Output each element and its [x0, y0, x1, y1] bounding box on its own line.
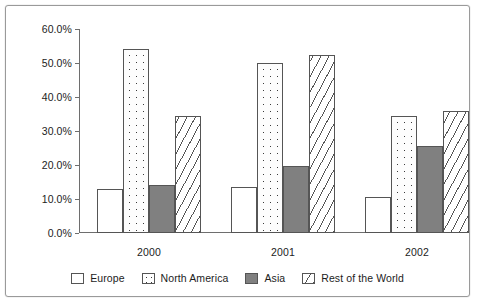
y-axis-tick-label-60.0pct: 60.0% [42, 23, 72, 35]
legend-label-asia: Asia [264, 272, 285, 284]
y-axis-tick-label-40.0pct: 40.0% [42, 91, 72, 103]
bar-europe-2002[interactable] [365, 197, 391, 233]
bar-asia-2001[interactable] [283, 166, 309, 233]
bar-north-america-2002[interactable] [391, 116, 417, 233]
bar-north-america-2000[interactable] [123, 49, 149, 233]
bar-rest-of-the-world-2002[interactable] [443, 111, 469, 233]
legend-label-north-america: North America [161, 272, 229, 284]
legend-swatch-europe [71, 273, 84, 284]
y-axis-tick-mark [75, 63, 79, 64]
x-axis-category-label-2001: 2001 [271, 246, 295, 258]
y-axis-tick-mark [75, 97, 79, 98]
y-axis-tick-mark [75, 165, 79, 166]
legend-item-europe[interactable]: Europe [71, 272, 124, 284]
bar-rest-of-the-world-2000[interactable] [175, 116, 201, 233]
legend-swatch-asia [245, 273, 258, 284]
y-axis-tick-label-50.0pct: 50.0% [42, 57, 72, 69]
y-axis-tick-label-20.0pct: 20.0% [42, 159, 72, 171]
bar-asia-2002[interactable] [417, 146, 443, 233]
y-axis-tick-mark [75, 199, 79, 200]
bar-europe-2000[interactable] [97, 189, 123, 233]
bar-europe-2001[interactable] [231, 187, 257, 233]
legend-label-rest-of-the-world: Rest of the World [321, 272, 404, 284]
legend-label-europe: Europe [90, 272, 124, 284]
x-axis-category-label-2000: 2000 [137, 246, 161, 258]
legend-item-asia[interactable]: Asia [245, 272, 285, 284]
plot-area: 0.0%10.0%20.0%30.0%40.0%50.0%60.0% 20002… [79, 29, 459, 233]
bar-group-2002: 2002 [365, 29, 477, 233]
chart-legend: EuropeNorth AmericaAsiaRest of the World [6, 272, 469, 284]
legend-item-rest-of-the-world[interactable]: Rest of the World [302, 272, 404, 284]
y-axis-tick-label-10.0pct: 10.0% [42, 193, 72, 205]
bar-asia-2000[interactable] [149, 185, 175, 233]
bar-rest-of-the-world-2001[interactable] [309, 55, 335, 234]
legend-item-north-america[interactable]: North America [142, 272, 229, 284]
legend-swatch-rest-of-the-world [302, 273, 315, 284]
bar-north-america-2001[interactable] [257, 63, 283, 233]
bar-group-2000: 2000 [97, 29, 215, 233]
x-axis-category-label-2002: 2002 [405, 246, 429, 258]
bar-group-2001: 2001 [231, 29, 349, 233]
y-axis-line [79, 29, 80, 233]
legend-swatch-north-america [142, 273, 155, 284]
y-axis-tick-mark [75, 131, 79, 132]
y-axis-tick-mark [75, 29, 79, 30]
chart-frame: 0.0%10.0%20.0%30.0%40.0%50.0%60.0% 20002… [5, 5, 470, 297]
y-axis-tick-mark [75, 233, 79, 234]
y-axis-tick-label-30.0pct: 30.0% [42, 125, 72, 137]
y-axis-tick-label-0.0pct: 0.0% [48, 227, 72, 239]
